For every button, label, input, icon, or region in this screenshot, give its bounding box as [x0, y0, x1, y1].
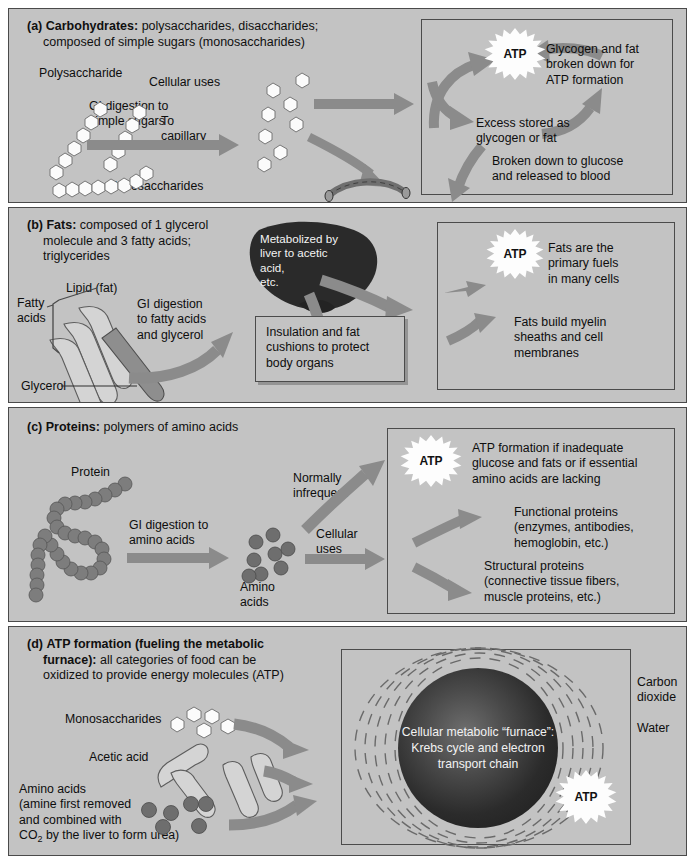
panel-a-heading: (a) Carbohydrates: polysaccharides, disa… — [27, 19, 447, 50]
panel-proteins: (c) Proteins: polymers of amino acids Pr… — [8, 407, 687, 622]
label-urea-rest: by the liver to form urea) — [42, 828, 179, 842]
label-normally-infrequent: Normally infrequent — [293, 471, 348, 502]
panel-b-heading-line2: molecule and 3 fatty acids; — [43, 234, 191, 248]
panel-d-marker: (d) — [27, 637, 43, 651]
arrow-to-myelin-line — [448, 321, 480, 341]
label-amino-acids-d: Amino acids (amine first removed and com… — [19, 782, 131, 828]
panel-carbohydrates: (a) Carbohydrates: polysaccharides, disa… — [8, 8, 687, 203]
label-functional-proteins: Functional proteins (enzymes, antibodies… — [514, 505, 634, 551]
arrow-gi-digestion-b-line — [129, 350, 217, 378]
label-water: Water — [637, 721, 669, 736]
panel-b-marker: (b) — [27, 218, 43, 232]
arrow-to-capillary-line — [309, 137, 371, 174]
label-gi-digestion-sugars: GI digestion to simple sugars — [89, 99, 168, 130]
arrow-input-amino-head — [293, 795, 317, 816]
panel-d-heading-rest: all categories of food can be — [96, 653, 256, 667]
label-fatty-acids: Fatty acids — [17, 296, 46, 327]
atp-star-b: ATP — [486, 229, 544, 279]
cellular-furnace-circle: Cellular metabolic “furnace”: Krebs cycl… — [398, 668, 558, 828]
label-amino-acids-c: Amino acids — [240, 580, 275, 611]
panel-c-heading-rest: polymers of amino acids — [100, 420, 238, 434]
atp-star-d: ATP — [555, 770, 617, 824]
arrow-functional-line — [414, 519, 464, 543]
arrow-to-excess-line — [432, 82, 458, 118]
arrow-to-blood-head — [448, 178, 470, 202]
monosaccharide-cluster-a — [258, 73, 309, 172]
label-cellular-uses-a: Cellular uses — [149, 75, 220, 90]
label-broken-down-glucose: Broken down to glucose and released to b… — [492, 154, 623, 185]
label-monosaccharides: Monosaccharides — [107, 179, 203, 194]
label-polysaccharide: Polysaccharide — [39, 66, 122, 81]
arrow-to-myelin-head — [474, 313, 496, 333]
panel-a-marker: (a) — [27, 19, 42, 33]
label-acetic-acid: Acetic acid — [89, 750, 148, 765]
label-protein: Protein — [71, 465, 110, 480]
label-cellular-uses-c: Cellular uses — [316, 527, 358, 558]
label-atp-formation-inadequate: ATP formation if inadequate glucose and … — [472, 441, 637, 487]
panel-a-heading-rest: polysaccharides, disaccharides; — [138, 19, 318, 33]
panel-c-heading: (c) Proteins: polymers of amino acids — [27, 420, 427, 436]
arrow-normally-infrequent-head — [359, 460, 385, 486]
arrow-excess-to-atpform-head — [582, 88, 602, 114]
arrow-input-acetic-line — [264, 771, 294, 782]
panel-b-heading-line3: triglycerides — [43, 249, 110, 263]
panel-a-right-box: ATP Glycogen and fat broken down for ATP… — [421, 19, 673, 195]
panel-c-right-box: ATP ATP formation if inadequate glucose … — [387, 428, 675, 614]
label-gi-digestion-fats: GI digestion to fatty acids and glycerol — [137, 297, 206, 343]
label-glycogen-fat-broken: Glycogen and fat broken down for ATP for… — [546, 42, 639, 88]
panel-a-heading-bold: Carbohydrates: — [46, 19, 138, 33]
panel-d-heading-bold: ATP formation (fueling the metabolic — [46, 637, 264, 651]
atp-star-c: ATP — [400, 435, 462, 487]
panel-d-heading-line3: oxidized to provide energy molecules (AT… — [43, 668, 284, 682]
label-fats-primary-fuels: Fats are the primary fuels in many cells — [548, 241, 619, 287]
label-excess-stored: Excess stored as glycogen or fat — [476, 116, 570, 147]
arrow-structural-line — [414, 567, 454, 589]
arrow-input-amino-line — [229, 805, 297, 825]
panel-d-heading-bold2: furnace): — [43, 653, 96, 667]
arrow-to-atp-b — [444, 281, 486, 297]
panel-b-heading-bold: Fats: — [46, 218, 76, 232]
arrow-to-atp-line — [434, 64, 476, 128]
arrow-structural-head — [448, 579, 472, 601]
panel-b-heading-rest: composed of 1 glycerol — [76, 218, 208, 232]
protein-bead-chain — [29, 477, 132, 602]
arrow-input-sugars-line — [234, 724, 289, 747]
monosaccharide-cluster-d — [171, 707, 235, 738]
label-carbon-dioxide: Carbon dioxide — [637, 675, 677, 706]
label-gi-digestion-protein: GI digestion to amino acids — [129, 518, 208, 549]
amino-acid-cluster-c — [242, 528, 295, 583]
label-fats-myelin: Fats build myelin sheaths and cell membr… — [514, 315, 606, 361]
label-glycerol: Glycerol — [21, 379, 66, 394]
panel-fats: (b) Fats: composed of 1 glycerol molecul… — [8, 207, 687, 403]
arrow-gi-digestion-b-head — [211, 332, 233, 358]
panel-c-marker: (c) — [27, 420, 42, 434]
furnace-box: Cellular metabolic “furnace”: Krebs cycl… — [341, 649, 631, 845]
panel-d-heading: (d) ATP formation (fueling the metabolic… — [27, 637, 377, 684]
arrow-input-acetic-head — [289, 774, 313, 793]
label-amino-acids-d-last: CO2 by the liver to form urea) — [19, 828, 179, 848]
acetic-acid-molecules — [158, 744, 282, 817]
panel-a-heading-line2: composed of simple sugars (monosaccharid… — [43, 35, 305, 49]
panel-c-heading-bold: Proteins: — [46, 420, 100, 434]
label-lipid-fat: Lipid (fat) — [66, 281, 117, 296]
label-liver-metabolized: Metabolized by liver to acetic acid, etc… — [260, 232, 338, 290]
atp-star-a: ATP — [484, 28, 546, 80]
label-co2: CO — [19, 828, 37, 842]
insulation-box: Insulation and fat cushions to protect b… — [255, 316, 405, 382]
panel-atp-formation: (d) ATP formation (fueling the metabolic… — [8, 626, 687, 856]
label-to-capillary: To capillary — [161, 114, 206, 145]
label-structural-proteins: Structural proteins (connective tissue f… — [484, 559, 619, 605]
capillary-vessel — [325, 182, 410, 202]
arrow-to-blood-line — [458, 146, 482, 188]
arrow-functional-head — [458, 509, 482, 529]
arrow-input-sugars-head — [283, 739, 309, 759]
furnace-label: Cellular metabolic “furnace”: Krebs cycl… — [398, 724, 558, 772]
arrow-to-excess-head — [450, 106, 474, 130]
label-insulation: Insulation and fat cushions to protect b… — [266, 325, 369, 371]
arrow-to-capillary-head — [359, 164, 387, 187]
arrow-gi-digestion-c — [127, 547, 229, 569]
panel-b-right-box: ATP Fats are the primary fuels in many c… — [437, 222, 675, 390]
label-monosaccharides-d: Monosaccharides — [65, 712, 161, 727]
arrow-cellular-uses-a — [314, 93, 414, 115]
figure-root: (a) Carbohydrates: polysaccharides, disa… — [0, 0, 695, 864]
